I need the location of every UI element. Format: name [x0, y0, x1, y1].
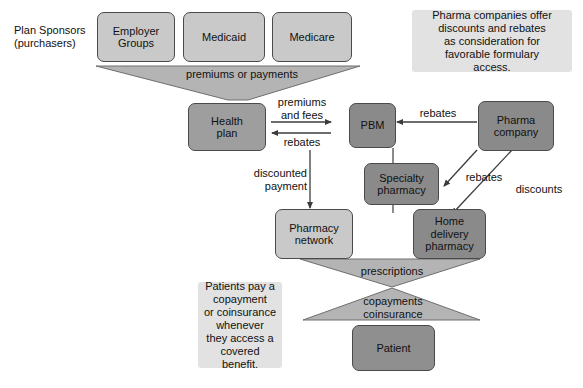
diagram-canvas: Plan Sponsors (purchasers) Employer Grou… [0, 0, 583, 388]
label-rebates-pharma-specialty: rebates [456, 171, 512, 184]
label-discounted-payment: discounted payment [243, 167, 307, 192]
label-prescriptions: prescriptions [332, 265, 452, 278]
node-medicare[interactable]: Medicare [272, 12, 352, 62]
label-copayments-coinsurance: copayments coinsurance [345, 295, 441, 320]
node-health-plan[interactable]: Health plan [188, 103, 266, 151]
note-pharma-discounts: Pharma companies offer discounts and reb… [412, 10, 572, 72]
label-premiums-or-payments: premiums or payments [162, 68, 322, 81]
label-rebates-pharma-pbm: rebates [405, 107, 471, 120]
label-discounts-pharma-home: discounts [508, 183, 570, 196]
note-patient-copayment: Patients pay a copayment or coinsurance … [198, 282, 282, 368]
node-specialty-pharmacy[interactable]: Specialty pharmacy [364, 163, 439, 205]
node-employer-groups[interactable]: Employer Groups [97, 12, 175, 62]
node-patient[interactable]: Patient [352, 325, 435, 371]
plan-sponsors-caption: Plan Sponsors (purchasers) [14, 24, 86, 50]
node-home-delivery-pharmacy[interactable]: Home delivery pharmacy [413, 209, 486, 259]
node-medicaid[interactable]: Medicaid [183, 12, 265, 62]
node-pharma-company[interactable]: Pharma company [478, 101, 554, 151]
label-premiums-and-fees: premiums and fees [267, 96, 337, 121]
node-pharmacy-network[interactable]: Pharmacy network [275, 209, 353, 259]
label-rebates-health-plan: rebates [267, 136, 337, 149]
node-pbm[interactable]: PBM [349, 103, 396, 148]
